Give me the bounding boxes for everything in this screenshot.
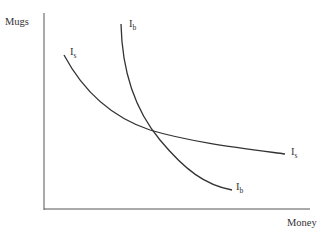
- curve-is: [64, 55, 285, 154]
- curve-label-is-right: Is: [291, 146, 297, 157]
- y-axis-label: Mugs: [5, 16, 29, 27]
- curve-label-ib-top: Ib: [129, 18, 136, 29]
- curve-label-is-top: Is: [70, 46, 76, 57]
- curve-label-ib-bottom: Ib: [236, 181, 243, 192]
- x-axis-label: Money: [287, 217, 317, 228]
- indifference-diagram: [0, 0, 332, 235]
- curve-ib: [121, 24, 232, 190]
